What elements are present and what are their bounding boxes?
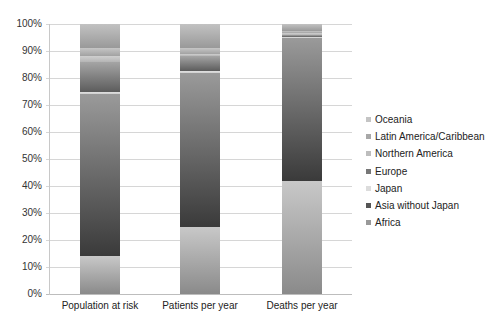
bar-deaths-per-year — [282, 24, 322, 294]
segment-latin-america-caribbean — [80, 48, 120, 56]
legend-label: Northern America — [375, 148, 453, 159]
legend-item: Northern America — [366, 145, 485, 162]
segment-oceania — [282, 24, 322, 31]
y-tick-label: 70% — [0, 99, 42, 110]
gridline — [46, 294, 352, 295]
bar-population-at-risk — [80, 24, 120, 294]
y-tick-label: 80% — [0, 72, 42, 83]
legend-swatch-icon — [366, 134, 371, 139]
segment-northern-america — [282, 33, 322, 34]
legend-label: Latin America/Caribbean — [375, 131, 485, 142]
legend-item: Latin America/Caribbean — [366, 128, 485, 145]
y-tick-label: 50% — [0, 153, 42, 164]
segment-africa — [282, 181, 322, 294]
segment-northern-america — [80, 56, 120, 61]
legend-swatch-icon — [366, 151, 371, 156]
legend-item: Africa — [366, 214, 485, 231]
segment-africa — [180, 227, 220, 295]
legend-item: Japan — [366, 180, 485, 197]
bar-patients-per-year — [180, 24, 220, 294]
y-tick-label: 60% — [0, 126, 42, 137]
segment-northern-america — [180, 54, 220, 57]
segment-africa — [80, 256, 120, 294]
segment-asia-without-japan — [282, 38, 322, 181]
y-tick-label: 20% — [0, 234, 42, 245]
stacked-bar-chart: 0%10%20%30%40%50%60%70%80%90%100% Popula… — [0, 0, 495, 329]
x-tick-label: Deaths per year — [242, 300, 362, 311]
y-tick-label: 10% — [0, 261, 42, 272]
legend-label: Africa — [375, 217, 401, 228]
segment-japan — [180, 71, 220, 72]
y-tick-label: 100% — [0, 18, 42, 29]
legend-item: Oceania — [366, 111, 485, 128]
y-tick-label: 40% — [0, 180, 42, 191]
legend-label: Europe — [375, 166, 407, 177]
segment-asia-without-japan — [180, 73, 220, 227]
segment-oceania — [180, 24, 220, 48]
segment-europe — [282, 35, 322, 37]
legend-label: Oceania — [375, 114, 412, 125]
y-tick-label: 0% — [0, 288, 42, 299]
legend-swatch-icon — [366, 169, 371, 174]
legend-item: Asia without Japan — [366, 197, 485, 214]
legend-swatch-icon — [366, 186, 371, 191]
legend-item: Europe — [366, 163, 485, 180]
legend-swatch-icon — [366, 220, 371, 225]
segment-asia-without-japan — [80, 94, 120, 256]
segment-oceania — [80, 24, 120, 48]
y-axis-line — [49, 24, 50, 295]
y-tick-label: 90% — [0, 45, 42, 56]
legend-swatch-icon — [366, 203, 371, 208]
legend: OceaniaLatin America/CaribbeanNorthern A… — [366, 111, 485, 231]
legend-label: Japan — [375, 183, 402, 194]
legend-label: Asia without Japan — [375, 200, 459, 211]
segment-japan — [80, 92, 120, 95]
segment-europe — [80, 62, 120, 92]
legend-swatch-icon — [366, 117, 371, 122]
segment-europe — [180, 56, 220, 71]
y-tick-label: 30% — [0, 207, 42, 218]
segment-latin-america-caribbean — [282, 31, 322, 34]
segment-latin-america-caribbean — [180, 48, 220, 53]
